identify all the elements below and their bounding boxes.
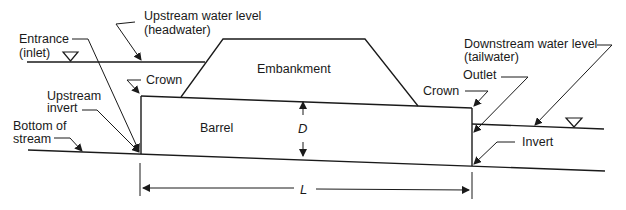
tailwater-line: [472, 124, 604, 129]
upstream-invert-sublabel: invert: [47, 101, 78, 115]
tailwater-symbol-icon: [566, 118, 582, 127]
entrance-sublabel: (inlet): [19, 46, 50, 60]
bottom-of-stream-sublabel: stream: [13, 132, 51, 146]
downstream-water-level-label: Downstream water level: [464, 37, 597, 51]
barrel-label: Barrel: [200, 121, 233, 135]
diagram-canvas: D L Entrance (inlet) Upstream water leve…: [0, 0, 626, 210]
stream-bed-line: [28, 150, 605, 171]
headwater-symbol-icon: [63, 52, 78, 61]
bottom-of-stream-label: Bottom of: [13, 119, 67, 133]
diameter-label: D: [298, 121, 307, 136]
upstream-water-level-label: Upstream water level: [144, 9, 261, 23]
upstream-water-leader: [116, 22, 141, 60]
upstream-invert-leader: [82, 110, 139, 152]
downstream-water-level-sublabel: (tailwater): [464, 50, 519, 64]
length-arrow-right: [316, 189, 469, 190]
invert-label: Invert: [522, 135, 554, 149]
length-label: L: [300, 182, 307, 197]
crown-left-leader: [127, 80, 141, 93]
crown-left-label: Crown: [146, 73, 182, 87]
outlet-label: Outlet: [463, 68, 497, 82]
embankment-label: Embankment: [257, 62, 331, 76]
downstream-water-leader: [535, 45, 612, 125]
culvert-diagram: D L Entrance (inlet) Upstream water leve…: [0, 0, 626, 210]
outlet-leader: [474, 77, 528, 132]
invert-leader: [474, 142, 515, 164]
entrance-label: Entrance: [19, 32, 69, 46]
crown-right-leader: [465, 91, 488, 106]
crown-right-label: Crown: [423, 84, 459, 98]
bottom-of-stream-leader: [54, 138, 82, 151]
upstream-water-level-sublabel: (headwater): [144, 23, 211, 37]
